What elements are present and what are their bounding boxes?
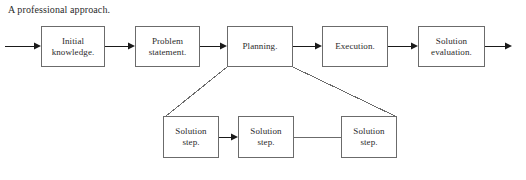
node-label: Solution evaluation. — [429, 36, 474, 58]
node-label: Solution step. — [173, 126, 208, 148]
connector-planning-to-step1 — [166, 67, 227, 116]
connector-execution-to-evaluation — [388, 42, 418, 49]
node-problem-statement[interactable]: Problem statement. — [135, 26, 200, 67]
node-planning[interactable]: Planning. — [227, 26, 293, 67]
diagram-canvas: A professional approach. Initial knowled… — [0, 0, 526, 180]
connector-entry-arrow — [5, 42, 41, 49]
node-label: Solution step. — [248, 126, 283, 148]
node-label: Problem statement. — [147, 36, 189, 58]
node-label: Execution. — [333, 41, 377, 52]
node-label: Planning. — [240, 41, 279, 52]
connector-step1-to-step2 — [219, 133, 238, 140]
arrowhead — [315, 42, 322, 49]
arrowhead — [220, 42, 227, 49]
node-solution-step-3[interactable]: Solution step. — [341, 116, 397, 158]
connector-planning-to-step3 — [293, 67, 395, 116]
node-label: Solution step. — [351, 126, 386, 148]
connector-exit-arrow — [485, 42, 512, 49]
node-initial-knowledge[interactable]: Initial knowledge. — [41, 26, 105, 67]
node-execution[interactable]: Execution. — [322, 26, 388, 67]
connector-initial-to-problem — [105, 42, 135, 49]
connector-planning-to-execution — [293, 42, 322, 49]
node-solution-step-1[interactable]: Solution step. — [163, 116, 219, 158]
arrowhead — [34, 42, 41, 49]
node-solution-evaluation[interactable]: Solution evaluation. — [418, 26, 485, 67]
arrowhead — [128, 42, 135, 49]
node-solution-step-2[interactable]: Solution step. — [238, 116, 294, 158]
arrowhead — [505, 42, 512, 49]
node-label: Initial knowledge. — [50, 36, 97, 58]
arrowhead — [411, 42, 418, 49]
arrowhead — [231, 133, 238, 140]
connector-problem-to-planning — [200, 42, 227, 49]
